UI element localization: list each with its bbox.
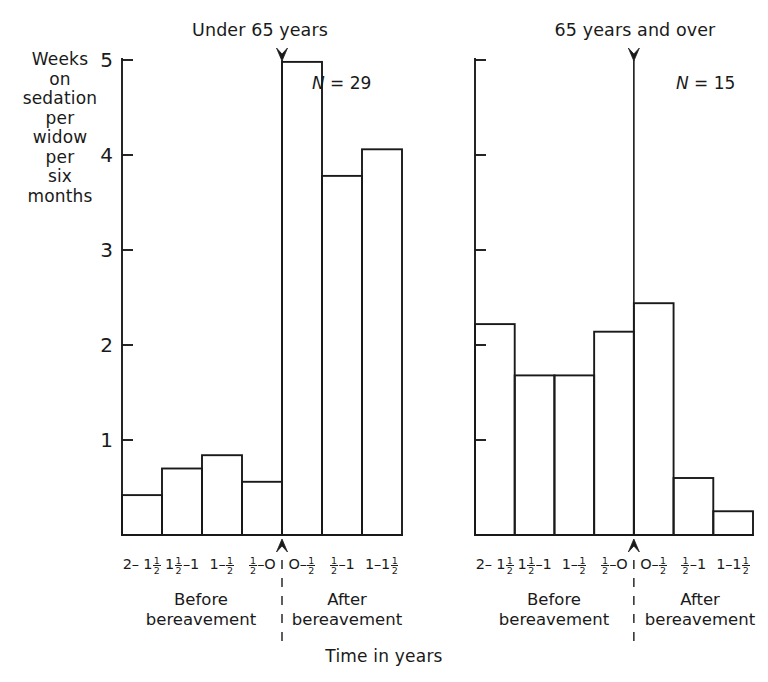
left-bereavement-down-arrow-icon <box>277 48 288 61</box>
right-bar-1 <box>515 375 555 535</box>
tick-text: O– <box>288 556 306 572</box>
tick-text: 1 <box>165 556 174 572</box>
right-bar-5 <box>674 478 714 535</box>
caption-left-before-bereavement: Before bereavement <box>122 590 280 630</box>
fraction-glyph: 12 <box>249 556 257 575</box>
left-x-tick-label-0: 2– 112 <box>122 556 162 588</box>
left-x-tick-label-3: 12–O <box>242 556 282 588</box>
tick-text: 1 <box>518 556 527 572</box>
right-bereavement-down-arrow-icon <box>628 48 639 61</box>
fraction-denominator: 2 <box>153 566 161 575</box>
left-x-tick-label-2: 1– 12 <box>202 556 242 588</box>
fraction-glyph: 12 <box>742 556 750 575</box>
right-bar-4 <box>634 303 674 535</box>
tick-text: 1–1 <box>716 556 741 572</box>
left-x-tick-label-5: 12–1 <box>322 556 362 588</box>
fraction-glyph: 12 <box>506 556 514 575</box>
left-bereavement-up-arrow-icon <box>277 539 288 552</box>
right-x-tick-label-2: 1– 12 <box>554 556 594 588</box>
figure-root: Weeks on sedation per widow per six mont… <box>0 0 768 682</box>
caption-right-after-bereavement: After bereavement <box>641 590 759 630</box>
fraction-denominator: 2 <box>391 566 399 575</box>
tick-text: –O <box>257 556 275 572</box>
right-x-tick-label-3: 12–O <box>594 556 634 588</box>
fraction-glyph: 12 <box>681 556 689 575</box>
fraction-glyph: 12 <box>527 556 535 575</box>
fraction-denominator: 2 <box>226 566 234 575</box>
tick-text: –O <box>609 556 627 572</box>
fraction-denominator: 2 <box>527 566 535 575</box>
right-x-tick-label-6: 1–112 <box>713 556 753 588</box>
fraction-denominator: 2 <box>307 566 315 575</box>
fraction-glyph: 12 <box>226 556 234 575</box>
fraction-denominator: 2 <box>506 566 514 575</box>
fraction-denominator: 2 <box>659 566 667 575</box>
tick-text: 1–1 <box>365 556 390 572</box>
tick-text: –1 <box>183 556 199 572</box>
y-tick-label-3: 3 <box>100 238 113 262</box>
fraction-glyph: 12 <box>330 556 338 575</box>
tick-text: 1– <box>210 556 226 572</box>
fraction-denominator: 2 <box>330 566 338 575</box>
fraction-denominator: 2 <box>742 566 750 575</box>
right-x-tick-label-1: 112–1 <box>515 556 555 588</box>
left-bar-2 <box>202 455 242 535</box>
right-bereavement-up-arrow-icon <box>628 539 639 552</box>
fraction-glyph: 12 <box>307 556 315 575</box>
fraction-denominator: 2 <box>601 566 609 575</box>
left-bar-0 <box>122 495 162 535</box>
fraction-glyph: 12 <box>659 556 667 575</box>
x-axis-title: Time in years <box>0 646 768 666</box>
y-tick-label-4: 4 <box>100 143 113 167</box>
tick-text: –1 <box>535 556 551 572</box>
tick-text: 1– <box>562 556 578 572</box>
caption-left-after-bereavement: After bereavement <box>288 590 406 630</box>
right-bar-0 <box>475 324 515 535</box>
fraction-glyph: 12 <box>391 556 399 575</box>
left-bar-3 <box>242 482 282 535</box>
tick-text: 2– 1 <box>476 556 506 572</box>
left-bar-6 <box>362 149 402 535</box>
fraction-glyph: 12 <box>601 556 609 575</box>
fraction-glyph: 12 <box>175 556 183 575</box>
y-tick-labels: 12345 <box>100 48 113 452</box>
right-x-tick-label-0: 2– 112 <box>475 556 515 588</box>
right-x-tick-label-4: O– 12 <box>634 556 674 588</box>
tick-text: O– <box>640 556 658 572</box>
y-tick-label-5: 5 <box>100 48 113 72</box>
right-x-tick-label-5: 12–1 <box>674 556 714 588</box>
left-x-tick-label-1: 112–1 <box>162 556 202 588</box>
left-x-tick-label-4: O– 12 <box>282 556 322 588</box>
right-bar-2 <box>554 375 594 535</box>
fraction-glyph: 12 <box>153 556 161 575</box>
fraction-denominator: 2 <box>175 566 183 575</box>
x-tick-labels-right: 2– 112112–11– 1212–OO– 1212–11–112 <box>475 556 753 588</box>
y-tick-label-1: 1 <box>100 428 113 452</box>
fraction-denominator: 2 <box>681 566 689 575</box>
left-bar-5 <box>322 176 362 535</box>
fraction-denominator: 2 <box>578 566 586 575</box>
right-bar-3 <box>594 332 634 535</box>
right-bar-6 <box>713 511 753 535</box>
tick-text: 2– 1 <box>123 556 153 572</box>
y-tick-label-2: 2 <box>100 333 113 357</box>
x-tick-labels-left: 2– 112112–11– 1212–OO– 1212–11–112 <box>122 556 402 588</box>
left-bar-1 <box>162 469 202 536</box>
tick-text: –1 <box>690 556 706 572</box>
left-bar-4 <box>282 62 322 535</box>
tick-text: –1 <box>338 556 354 572</box>
caption-right-before-bereavement: Before bereavement <box>475 590 633 630</box>
fraction-glyph: 12 <box>578 556 586 575</box>
left-x-tick-label-6: 1–112 <box>362 556 402 588</box>
fraction-denominator: 2 <box>249 566 257 575</box>
